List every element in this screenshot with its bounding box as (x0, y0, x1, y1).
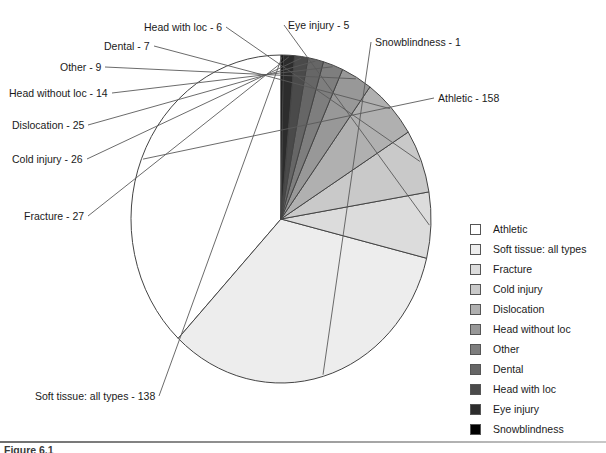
legend-item[interactable]: Head with loc (470, 379, 602, 399)
legend-item[interactable]: Dislocation (470, 299, 602, 319)
legend-item[interactable]: Cold injury (470, 279, 602, 299)
pie-chart-figure: Athletic - 158Snowblindness - 1Eye injur… (0, 0, 606, 453)
legend-swatch-icon (470, 324, 481, 335)
legend-swatch-icon (470, 244, 481, 255)
legend-item-label: Head with loc (493, 383, 556, 395)
legend-item-label: Soft tissue: all types (493, 243, 586, 255)
legend-item-label: Dislocation (493, 303, 544, 315)
pie-slices-group (131, 55, 431, 383)
legend-item-label: Head without loc (493, 323, 571, 335)
pie-slice-callout: Snowblindness - 1 (375, 36, 461, 48)
legend-swatch-icon (470, 424, 481, 435)
legend-swatch-icon (470, 224, 481, 235)
legend-swatch-icon (470, 404, 481, 415)
pie-slice-callout: Cold injury - 26 (12, 153, 83, 165)
figure-footer-rule (0, 441, 606, 443)
legend-item[interactable]: Eye injury (470, 399, 602, 419)
legend-swatch-icon (470, 364, 481, 375)
pie-slice-callout: Athletic - 158 (438, 92, 499, 104)
pie-slice-callout: Fracture - 27 (24, 210, 84, 222)
legend-item[interactable]: Other (470, 339, 602, 359)
legend-swatch-icon (470, 284, 481, 295)
figure-caption: Figure 6.1 (4, 444, 54, 453)
legend-item-label: Cold injury (493, 283, 543, 295)
pie-slice-callout: Head with loc - 6 (144, 21, 222, 33)
legend-item[interactable]: Snowblindness (470, 419, 602, 439)
legend-item[interactable]: Soft tissue: all types (470, 239, 602, 259)
legend-item[interactable]: Fracture (470, 259, 602, 279)
chart-legend: AthleticSoft tissue: all typesFractureCo… (470, 219, 602, 439)
pie-slice-callout: Head without loc - 14 (9, 87, 108, 99)
pie-slice-callout: Eye injury - 5 (288, 19, 349, 31)
legend-item-label: Athletic (493, 223, 527, 235)
legend-item[interactable]: Dental (470, 359, 602, 379)
legend-item[interactable]: Athletic (470, 219, 602, 239)
legend-swatch-icon (470, 344, 481, 355)
legend-swatch-icon (470, 384, 481, 395)
legend-item-label: Dental (493, 363, 523, 375)
pie-slice-callout: Dislocation - 25 (12, 119, 84, 131)
legend-item[interactable]: Head without loc (470, 319, 602, 339)
legend-item-label: Eye injury (493, 403, 539, 415)
legend-swatch-icon (470, 304, 481, 315)
legend-swatch-icon (470, 264, 481, 275)
pie-slice-callout: Dental - 7 (104, 40, 150, 52)
pie-slice-callout: Soft tissue: all types - 138 (35, 390, 155, 402)
legend-item-label: Fracture (493, 263, 532, 275)
pie-slice-callout: Other - 9 (60, 61, 101, 73)
legend-item-label: Other (493, 343, 519, 355)
legend-item-label: Snowblindness (493, 423, 564, 435)
